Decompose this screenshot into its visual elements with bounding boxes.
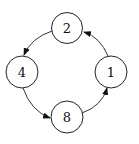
node-2: 2 <box>52 13 83 44</box>
node-1: 1 <box>95 56 127 88</box>
cycle-diagram: 2 4 1 8 <box>0 0 139 144</box>
node-8: 8 <box>51 101 83 133</box>
node-label: 8 <box>63 110 71 125</box>
edge-2-to-4 <box>24 31 52 55</box>
diagram-canvas: 2 4 1 8 <box>0 0 139 144</box>
edge-4-to-8 <box>23 88 50 118</box>
edge-1-to-2 <box>84 32 108 56</box>
node-label: 4 <box>18 65 26 80</box>
node-4: 4 <box>6 56 38 88</box>
node-label: 1 <box>107 65 115 80</box>
node-label: 2 <box>63 21 71 36</box>
edge-8-to-1 <box>82 88 107 113</box>
